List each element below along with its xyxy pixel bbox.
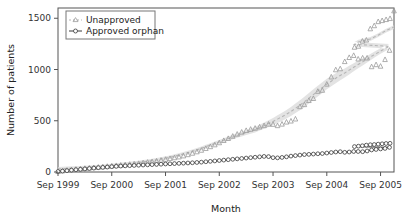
data-point-approved-orphan	[92, 166, 96, 170]
data-point-approved-orphan	[379, 147, 383, 151]
data-point-approved-orphan	[195, 161, 199, 165]
data-point-approved-orphan	[240, 157, 244, 161]
data-point-approved-orphan	[338, 150, 342, 154]
data-point-approved-orphan	[141, 163, 145, 167]
data-point-approved-orphan	[262, 155, 266, 159]
data-point-approved-orphan	[276, 156, 280, 160]
data-point-approved-orphan	[384, 142, 388, 146]
data-point-approved-orphan	[74, 168, 78, 172]
x-tick-label: Sep 2005	[359, 180, 402, 190]
data-point-approved-orphan	[208, 159, 212, 163]
data-point-approved-orphan	[65, 169, 69, 173]
data-point-approved-orphan	[199, 160, 203, 164]
data-point-approved-orphan	[303, 153, 307, 157]
data-point-approved-orphan	[114, 164, 118, 168]
data-point-approved-orphan	[364, 143, 368, 147]
y-tick-label: 500	[34, 116, 51, 126]
data-point-approved-orphan	[353, 145, 357, 149]
data-point-approved-orphan	[376, 142, 380, 146]
data-point-approved-orphan	[307, 152, 311, 156]
data-point-approved-orphan	[294, 154, 298, 158]
chart-svg: 050010001500 Sep 1999Sep 2000Sep 2001Sep…	[0, 0, 407, 222]
data-point-approved-orphan	[132, 164, 136, 168]
data-point-approved-orphan	[357, 144, 361, 148]
data-point-approved-orphan	[316, 152, 320, 156]
data-point-approved-orphan	[182, 161, 186, 165]
data-point-approved-orphan	[123, 164, 127, 168]
y-tick-label: 1500	[28, 13, 51, 23]
data-point-approved-orphan	[173, 162, 177, 166]
data-point-approved-orphan	[298, 153, 302, 157]
data-point-approved-orphan	[164, 162, 168, 166]
data-point-approved-orphan	[204, 160, 208, 164]
data-point-approved-orphan	[79, 167, 83, 171]
data-point-approved-orphan	[352, 150, 356, 154]
data-point-approved-orphan	[155, 163, 159, 167]
data-point-approved-orphan	[334, 150, 338, 154]
data-point-approved-orphan	[70, 168, 74, 172]
data-point-approved-orphan	[311, 152, 315, 156]
data-point-approved-orphan	[280, 156, 284, 160]
data-point-approved-orphan	[110, 165, 114, 169]
x-tick-label: Sep 2000	[90, 180, 133, 190]
y-axis-ticks: 050010001500	[28, 13, 58, 177]
data-point-approved-orphan	[347, 150, 351, 154]
data-point-approved-orphan	[374, 148, 378, 152]
data-point-approved-orphan	[380, 142, 384, 146]
data-point-approved-orphan	[370, 148, 374, 152]
x-tick-label: Sep 1999	[37, 180, 80, 190]
data-point-approved-orphan	[365, 149, 369, 153]
x-tick-label: Sep 2001	[144, 180, 187, 190]
data-point-approved-orphan	[119, 164, 123, 168]
data-point-approved-orphan	[383, 147, 387, 151]
y-tick-label: 1000	[28, 65, 51, 75]
x-tick-label: Sep 2004	[305, 180, 348, 190]
data-point-approved-orphan	[128, 164, 132, 168]
x-tick-label: Sep 2002	[198, 180, 241, 190]
data-point-approved-orphan	[360, 144, 364, 148]
data-point-approved-orphan	[235, 157, 239, 161]
data-point-approved-orphan	[258, 155, 262, 159]
legend: Unapproved Approved orphan	[66, 11, 164, 39]
data-point-approved-orphan	[285, 155, 289, 159]
data-point-approved-orphan	[325, 151, 329, 155]
data-point-approved-orphan	[267, 155, 271, 159]
data-point-approved-orphan	[244, 156, 248, 160]
data-point-approved-orphan	[271, 156, 275, 160]
circle-icon	[74, 29, 78, 33]
data-point-approved-orphan	[146, 163, 150, 167]
data-point-approved-orphan	[249, 156, 253, 160]
data-point-approved-orphan	[150, 163, 154, 167]
data-point-approved-orphan	[231, 157, 235, 161]
data-point-approved-orphan	[361, 150, 365, 154]
data-point-approved-orphan	[105, 165, 109, 169]
data-point-approved-orphan	[226, 158, 230, 162]
x-tick-label: Sep 2003	[252, 180, 295, 190]
data-point-approved-orphan	[83, 167, 87, 171]
data-point-approved-orphan	[217, 159, 221, 163]
data-point-approved-orphan	[388, 146, 392, 150]
data-point-approved-orphan	[372, 143, 376, 147]
data-point-approved-orphan	[159, 162, 163, 166]
data-point-approved-orphan	[253, 155, 257, 159]
data-point-approved-orphan	[177, 161, 181, 165]
data-point-approved-orphan	[168, 162, 172, 166]
data-point-approved-orphan	[356, 150, 360, 154]
data-point-approved-orphan	[289, 154, 293, 158]
data-point-approved-orphan	[213, 159, 217, 163]
y-tick-label: 0	[45, 167, 51, 177]
data-point-approved-orphan	[61, 169, 65, 173]
legend-label-approved-orphan: Approved orphan	[86, 26, 164, 36]
data-point-approved-orphan	[343, 150, 347, 154]
data-point-approved-orphan	[320, 152, 324, 156]
data-point-approved-orphan	[101, 165, 105, 169]
data-point-approved-orphan	[222, 158, 226, 162]
data-point-approved-orphan	[96, 166, 100, 170]
chart-figure: 050010001500 Sep 1999Sep 2000Sep 2001Sep…	[0, 0, 407, 222]
data-point-approved-orphan	[329, 151, 333, 155]
data-point-approved-orphan	[388, 141, 392, 145]
data-point-approved-orphan	[137, 163, 141, 167]
data-point-approved-orphan	[87, 167, 91, 171]
y-axis-title: Number of patients	[5, 44, 16, 136]
x-axis-ticks: Sep 1999Sep 2000Sep 2001Sep 2002Sep 2003…	[37, 172, 402, 190]
